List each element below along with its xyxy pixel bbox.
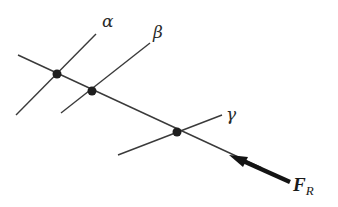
beta-intersection-dot [88, 87, 97, 96]
force-diagram: α β γ FR [0, 0, 338, 207]
alpha-intersection-dot [53, 70, 62, 79]
alpha-label: α [102, 11, 114, 31]
gamma-axis [118, 115, 222, 155]
gamma-label: γ [226, 104, 237, 124]
force-label: FR [292, 174, 314, 198]
beta-label: β [152, 22, 163, 42]
beta-axis [61, 43, 150, 113]
gamma-intersection-dot [173, 128, 182, 137]
resultant-force-arrow-icon [229, 155, 290, 182]
